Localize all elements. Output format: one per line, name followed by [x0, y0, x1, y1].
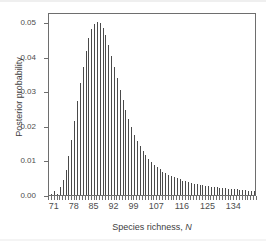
x-axis-tick-label: 85	[89, 201, 99, 211]
x-axis-tick-mark	[111, 196, 112, 200]
x-axis-tick-mark	[196, 196, 197, 200]
bar	[151, 162, 152, 195]
x-axis-tick-mark	[179, 196, 180, 200]
x-axis-tick-mark	[125, 196, 126, 200]
x-axis-tick-mark	[205, 196, 206, 200]
x-axis-tick-label: 125	[200, 201, 215, 211]
bar	[157, 167, 158, 195]
x-axis-tick-label: 134	[226, 201, 241, 211]
x-axis-tick-mark	[199, 196, 200, 200]
x-axis-tick-mark	[114, 196, 115, 200]
bar	[160, 169, 161, 195]
bar	[197, 184, 198, 195]
bar	[174, 177, 175, 195]
x-axis-tick-mark	[119, 196, 120, 200]
x-axis-tick-mark	[202, 196, 203, 200]
bar	[71, 140, 72, 195]
x-axis-tick-mark	[88, 196, 89, 200]
bar	[237, 189, 238, 195]
bar	[214, 187, 215, 195]
x-axis-tick-mark	[102, 196, 103, 200]
bar	[134, 135, 135, 195]
bar	[242, 190, 243, 195]
x-axis-tick-mark	[245, 196, 246, 200]
bar	[51, 194, 52, 195]
bar	[63, 180, 64, 195]
bar	[143, 151, 144, 195]
bar	[105, 35, 106, 195]
bar	[165, 173, 166, 195]
x-axis-tick-mark	[165, 196, 166, 200]
x-axis-tick-mark	[173, 196, 174, 200]
x-axis-tick-mark	[108, 196, 109, 200]
bar	[114, 67, 115, 195]
bar	[180, 179, 181, 195]
x-axis-tick-mark	[176, 196, 177, 200]
bar	[108, 45, 109, 195]
x-axis-tick-mark	[256, 196, 257, 200]
x-axis-tick-mark	[151, 196, 152, 200]
bar	[57, 194, 58, 195]
x-axis-tick-label: 116	[175, 201, 189, 211]
y-axis-tick-label: 0.00	[20, 192, 36, 200]
bar	[205, 186, 206, 195]
x-axis-tick-mark	[185, 196, 186, 200]
bar	[137, 141, 138, 195]
x-axis-tick-mark	[54, 196, 55, 200]
bar	[211, 187, 212, 195]
x-axis-tick-mark	[253, 196, 254, 200]
bar	[245, 190, 246, 195]
x-axis-tick-mark	[208, 196, 209, 200]
bar	[251, 191, 252, 195]
bar	[202, 185, 203, 195]
x-axis-tick-mark	[156, 196, 157, 200]
bar	[194, 184, 195, 195]
bar	[83, 67, 84, 195]
x-axis-tick-mark	[57, 196, 58, 200]
x-axis-tick-mark	[142, 196, 143, 200]
x-axis-tick-mark	[247, 196, 248, 200]
bar	[131, 127, 132, 195]
x-axis-title: Species richness, N	[48, 222, 256, 232]
bar	[191, 183, 192, 195]
x-axis-title-symbol: N	[185, 222, 192, 232]
bar	[200, 185, 201, 195]
x-axis-tick-mark	[228, 196, 229, 200]
bar	[219, 188, 220, 195]
x-axis-tick-mark	[48, 196, 49, 200]
x-axis-tick-mark	[193, 196, 194, 200]
x-axis-tick-mark	[222, 196, 223, 200]
x-axis-tick-mark	[128, 196, 129, 200]
bar	[88, 38, 89, 195]
x-axis-tick-mark	[242, 196, 243, 200]
bar	[188, 182, 189, 195]
x-axis-tick-mark	[139, 196, 140, 200]
x-axis-tick-mark	[230, 196, 231, 200]
bar	[100, 23, 101, 195]
bar	[148, 159, 149, 195]
bar	[60, 187, 61, 195]
x-axis-tick-mark	[51, 196, 52, 200]
x-axis-title-text: Species richness,	[112, 222, 185, 232]
x-axis-tick-marks	[48, 196, 256, 200]
bar	[217, 187, 218, 195]
bar	[248, 191, 249, 195]
x-axis-tick-mark	[233, 196, 234, 200]
bar	[162, 172, 163, 195]
bar	[182, 181, 183, 196]
x-axis-tick-mark	[79, 196, 80, 200]
bar	[68, 156, 69, 195]
bar	[94, 24, 95, 195]
x-axis-tick-mark	[250, 196, 251, 200]
x-axis-tick-mark	[122, 196, 123, 200]
bar-series	[49, 14, 255, 195]
x-axis-tick-mark	[168, 196, 169, 200]
bar	[168, 175, 169, 195]
x-axis-tick-mark	[65, 196, 66, 200]
bar	[239, 190, 240, 195]
bar	[54, 191, 55, 195]
x-axis-tick-mark	[213, 196, 214, 200]
x-axis-tick-label: 78	[69, 201, 79, 211]
x-axis-tick-mark	[62, 196, 63, 200]
x-axis-tick-label: 99	[128, 201, 138, 211]
